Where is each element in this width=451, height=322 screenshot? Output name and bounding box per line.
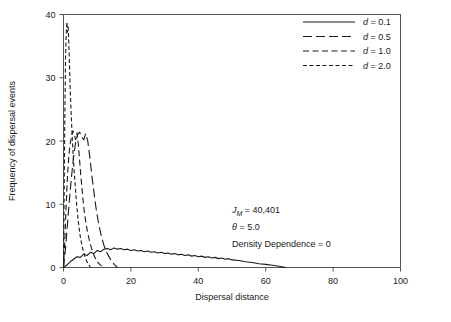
x-tick-label: 0 <box>61 276 66 286</box>
legend-label-2-0: d = 2.0 <box>363 61 391 71</box>
annotation-density: Density Dependence = 0 <box>232 239 331 249</box>
y-tick-label: 10 <box>45 200 55 210</box>
y-tick-label: 0 <box>50 263 55 273</box>
annotation-jm: JM = 40,401 <box>231 205 280 217</box>
x-tick-label: 20 <box>126 276 136 286</box>
series-line-2-0 <box>64 22 91 267</box>
x-axis-ticks: 020406080100 <box>61 268 408 286</box>
x-tick-label: 60 <box>261 276 271 286</box>
y-tick-label: 30 <box>45 73 55 83</box>
legend-label-0-5: d = 0.5 <box>363 32 391 42</box>
annotation-theta: θ = 5.0 <box>232 222 260 232</box>
x-tick-label: 100 <box>393 276 408 286</box>
series-line-0-5 <box>64 132 118 267</box>
series-line-0-1 <box>64 248 286 268</box>
legend-label-1-0: d = 1.0 <box>363 46 391 56</box>
x-axis-title: Dispersal distance <box>195 292 269 302</box>
x-tick-label: 80 <box>328 276 338 286</box>
y-tick-label: 20 <box>45 137 55 147</box>
chart-annotations: JM = 40,401θ = 5.0Density Dependence = 0 <box>231 205 331 249</box>
y-tick-label: 40 <box>45 10 55 20</box>
y-axis-ticks: 010203040 <box>45 10 63 273</box>
y-axis-title: Frequency of dispersal events <box>7 80 17 201</box>
legend-label-0-1: d = 0.1 <box>363 17 391 27</box>
chart-figure: 020406080100 010203040 Dispersal distanc… <box>0 0 451 322</box>
chart-legend: d = 0.1d = 0.5d = 1.0d = 2.0 <box>303 17 391 71</box>
dispersal-frequency-line-chart: 020406080100 010203040 Dispersal distanc… <box>0 0 451 322</box>
x-tick-label: 40 <box>193 276 203 286</box>
